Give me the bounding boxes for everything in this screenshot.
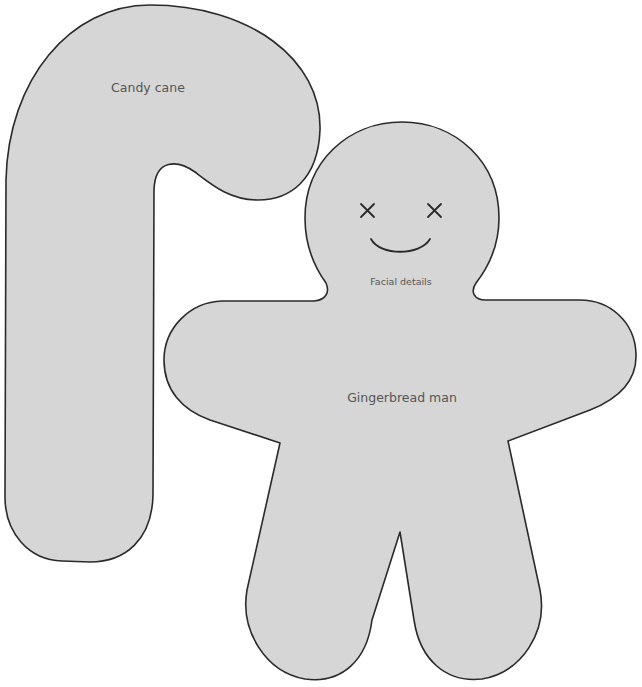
facial-details-label: Facial details [370,276,431,287]
gingerbread-man-shape: Facial details Gingerbread man [164,122,636,680]
template-canvas: Candy cane Facial details Gingerbread ma… [0,0,642,687]
gingerbread-man-label: Gingerbread man [347,390,457,405]
candy-cane-label: Candy cane [111,80,185,95]
